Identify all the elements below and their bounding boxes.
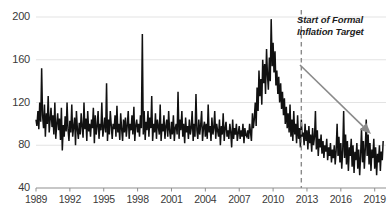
x-tick-2007: 2007 <box>222 193 256 205</box>
y-tick-40: 40 <box>2 181 30 193</box>
x-tick-2001: 2001 <box>154 193 188 205</box>
x-tick-1989: 1989 <box>19 193 53 205</box>
x-tick-2010: 2010 <box>256 193 290 205</box>
axis-lines <box>36 188 386 192</box>
x-tick-2013: 2013 <box>290 193 324 205</box>
y-tick-200: 200 <box>2 10 30 22</box>
y-tick-80: 80 <box>2 138 30 150</box>
x-tick-2019: 2019 <box>358 193 388 205</box>
data-series-line <box>36 19 383 175</box>
annotation-line-2: Inflation Target <box>297 26 387 38</box>
x-tick-1998: 1998 <box>121 193 155 205</box>
x-tick-2016: 2016 <box>324 193 358 205</box>
x-tick-1992: 1992 <box>53 193 87 205</box>
x-tick-2004: 2004 <box>188 193 222 205</box>
annotation-line-1: Start of Formal <box>297 14 387 26</box>
annotation-label: Start of Formal Inflation Target <box>297 14 387 37</box>
x-tick-1995: 1995 <box>87 193 121 205</box>
trend-arrow-icon <box>300 65 371 134</box>
inflation-index-chart: 4080120160200 19891992199519982001200420… <box>0 0 388 217</box>
y-tick-120: 120 <box>2 96 30 108</box>
y-tick-160: 160 <box>2 53 30 65</box>
